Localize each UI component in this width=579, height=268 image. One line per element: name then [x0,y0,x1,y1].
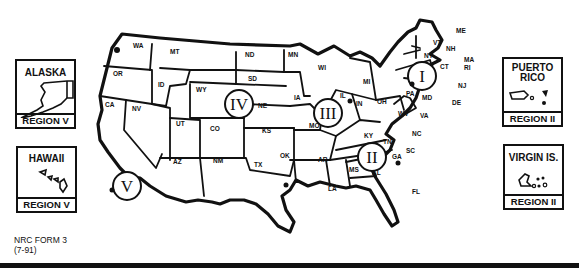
state-label-mo: MO [309,122,319,129]
state-label-ks: KS [262,127,272,134]
state-label-md: MD [422,94,432,101]
state-label-co: CO [210,125,220,132]
state-label-ca: CA [105,101,115,108]
form-info: NRC FORM 3 (7-91) [14,235,67,255]
state-label-mt: MT [170,48,179,55]
state-label-ne: NE [258,102,268,109]
state-label-ms: MS [349,166,359,173]
state-label-oh: OH [377,98,387,105]
state-label-ct: CT [440,63,449,70]
state-label-la: LA [328,185,337,192]
office-dot-tx [284,183,289,188]
state-label-vt: VT [433,39,441,46]
state-label-de: DE [452,99,462,106]
state-label-wv: WV [398,110,409,117]
state-label-nm: NM [213,157,223,164]
state-label-ma: MA [464,56,474,63]
state-label-nv: NV [132,105,142,112]
office-dot-ga [396,161,401,166]
state-label-ky: KY [364,132,374,139]
bottom-border [0,263,579,268]
region-ii-label: II [366,148,378,167]
region-iii-label: III [320,104,337,123]
form-date: (7-91) [14,245,67,255]
office-dot-ca [110,188,115,193]
us-map: V IV III I II WA OR CA NV ID MT WY UT CO… [0,0,579,268]
state-label-tn: TN [383,138,392,145]
office-dot-il [348,99,353,104]
state-label-ri: RI [464,64,471,71]
state-label-mn: MN [288,51,298,58]
region-iv-label: IV [230,95,249,114]
state-label-ok: OK [280,152,290,159]
office-dot-wa [114,47,120,53]
region-v-label: V [121,177,134,196]
state-label-ut: UT [176,120,185,127]
state-label-wy: WY [196,86,207,93]
state-label-or: OR [113,70,123,77]
state-label-wa: WA [133,42,144,49]
state-label-ar: AR [318,156,328,163]
state-label-in: IN [356,100,363,107]
state-label-va: VA [420,112,429,119]
state-label-wi: WI [318,64,326,71]
form-label: NRC FORM 3 [14,235,67,245]
state-label-tx: TX [254,161,263,168]
state-label-id: ID [158,81,165,88]
state-label-nd: ND [245,51,255,58]
state-labels: WA OR CA NV ID MT WY UT CO AZ NM ND SD N… [105,27,474,195]
state-label-nc: NC [412,130,422,137]
office-dot-pa [410,82,415,87]
state-label-ga: GA [392,153,402,160]
state-label-pa: PA [406,90,415,97]
state-label-ia: IA [294,94,301,101]
state-label-mi: MI [363,78,370,85]
state-label-il: IL [340,92,346,99]
state-label-fl: FL [412,188,420,195]
state-label-me: ME [456,27,466,34]
us-outline [98,20,442,232]
state-label-ny: NY [424,52,434,59]
state-label-sd: SD [248,75,257,82]
state-label-nh: NH [446,45,456,52]
state-label-az: AZ [173,158,182,165]
state-label-sc: SC [406,147,415,154]
state-label-nj: NJ [458,82,467,89]
region-i-label: I [419,67,425,86]
state-label-al: AL [372,169,381,176]
